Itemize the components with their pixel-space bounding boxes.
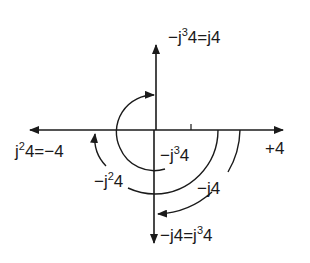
label-bottom-minus-j4: −j4=j34 <box>160 227 212 244</box>
label-right-plus4: +4 <box>265 140 284 157</box>
label-left-minus4: j24=−4 <box>15 143 64 160</box>
diagram-graphics <box>0 0 310 263</box>
label-middle-arc: −j24 <box>94 173 123 190</box>
negative-real-arrow-arc <box>95 134 106 166</box>
complex-plane-diagram: −j34=j4 j24=−4 +4 −j34 −j24 −j4 −j4=j34 <box>0 0 310 263</box>
label-inner-arc: −j34 <box>160 147 189 164</box>
label-outer-arc: −j4 <box>197 180 220 197</box>
inner-rotation-arc <box>116 95 165 171</box>
label-top-j4: −j34=j4 <box>168 29 220 46</box>
outer-rotation-arc <box>228 130 240 172</box>
